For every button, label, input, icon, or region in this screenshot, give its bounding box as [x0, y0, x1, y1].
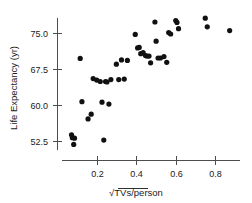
- data-point: [108, 77, 113, 82]
- data-point: [85, 116, 90, 121]
- data-point: [137, 45, 142, 50]
- y-tick-label-60: 60.0: [30, 101, 48, 111]
- data-point: [176, 26, 181, 31]
- data-point: [164, 60, 169, 65]
- data-point: [101, 137, 106, 142]
- x-tick-label-0-2: 0.2: [91, 169, 104, 179]
- x-tick-label-0-6: 0.6: [170, 169, 183, 179]
- data-point: [98, 79, 103, 84]
- data-point: [168, 31, 173, 36]
- x-tick-label-0-4: 0.4: [130, 169, 143, 179]
- data-point: [72, 136, 77, 141]
- data-point: [146, 53, 151, 58]
- y-tick-label-75: 75.0: [30, 29, 48, 39]
- data-point: [227, 28, 232, 33]
- data-point: [99, 100, 104, 105]
- data-point: [152, 19, 157, 24]
- data-point: [122, 77, 127, 82]
- data-point: [125, 58, 130, 63]
- data-point: [133, 32, 138, 37]
- y-tick-label-52-5: 52.5: [30, 137, 48, 147]
- x-tick-label-0-8: 0.8: [209, 169, 222, 179]
- data-point: [205, 24, 210, 29]
- data-point: [78, 56, 83, 61]
- data-point: [106, 101, 111, 106]
- y-axis-title: Life Expectancy (yr): [8, 46, 19, 130]
- data-points-group: [69, 16, 232, 147]
- y-tick-label-67-5: 67.5: [30, 65, 48, 75]
- data-point: [79, 99, 84, 104]
- data-point: [203, 16, 208, 21]
- data-point: [114, 62, 119, 67]
- data-point: [119, 57, 124, 62]
- data-point: [89, 112, 94, 117]
- data-point: [154, 39, 159, 44]
- data-point: [116, 77, 121, 82]
- data-point: [161, 54, 166, 59]
- chart-canvas: 75.0 67.5 60.0 52.5 0.2 0.4 0.6 0.8 √TVs…: [0, 0, 252, 203]
- data-point: [71, 142, 76, 147]
- data-point: [174, 20, 179, 25]
- data-point: [148, 60, 153, 65]
- scatter-plot-figure: 75.0 67.5 60.0 52.5 0.2 0.4 0.6 0.8 √TVs…: [0, 0, 252, 203]
